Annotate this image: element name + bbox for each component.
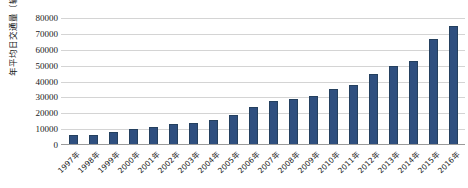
bar-slot <box>303 18 323 145</box>
x-axis-tick-label: 1998年 <box>75 149 101 175</box>
bar-slot <box>363 18 383 145</box>
plot-area <box>61 18 465 145</box>
x-axis-tick-label: 2006年 <box>235 149 261 175</box>
bar <box>289 99 298 145</box>
bar-series <box>61 18 465 145</box>
bar-slot <box>143 18 163 145</box>
x-axis-tick-labels: 1997年1998年1999年2000年2001年2002年2003年2004年… <box>61 147 465 188</box>
y-axis-tick-label: 30000 <box>36 93 59 102</box>
y-axis-title: 年平均日交通量（辆/日） <box>6 0 20 90</box>
y-axis-tick-labels: 8000070000600005000040000300002000010000… <box>20 0 58 150</box>
bar-slot <box>123 18 143 145</box>
y-axis-tick-label: 80000 <box>36 14 59 23</box>
bar-slot <box>343 18 363 145</box>
bar <box>389 66 398 145</box>
bar-slot <box>383 18 403 145</box>
x-axis-line <box>61 144 465 145</box>
y-axis-tick-label: 10000 <box>36 125 59 134</box>
y-axis-tick-label: 40000 <box>36 77 59 86</box>
bar-slot <box>243 18 263 145</box>
x-axis-tick-label: 2010年 <box>315 149 341 175</box>
x-axis-tick-label: 1999年 <box>95 149 121 175</box>
bar <box>209 120 218 145</box>
bar <box>129 129 138 145</box>
bar <box>429 39 438 145</box>
bar <box>189 123 198 145</box>
bar <box>249 107 258 145</box>
y-axis-tick-label: 70000 <box>36 29 59 38</box>
x-axis-tick-label: 2001年 <box>135 149 161 175</box>
bar-chart: 年平均日交通量（辆/日） 800007000060000500004000030… <box>0 0 468 188</box>
bar <box>349 85 358 145</box>
bar-slot <box>103 18 123 145</box>
bar <box>269 101 278 145</box>
bar <box>229 115 238 145</box>
y-axis-tick-label: 60000 <box>36 45 59 54</box>
bar-slot <box>403 18 423 145</box>
x-axis-tick-label: 2013年 <box>375 149 401 175</box>
bar <box>449 26 458 145</box>
bar-slot <box>63 18 83 145</box>
y-axis-tick-label: 20000 <box>36 109 59 118</box>
bar-slot <box>263 18 283 145</box>
x-axis-tick-label: 2011年 <box>335 149 361 175</box>
bar <box>149 127 158 145</box>
bar-slot <box>323 18 343 145</box>
bar <box>169 124 178 145</box>
x-axis-tick-label: 2005年 <box>215 149 241 175</box>
bar-slot <box>163 18 183 145</box>
bar-slot <box>183 18 203 145</box>
y-axis-tick-label: 0 <box>54 141 59 150</box>
x-axis-tick-label: 2012年 <box>355 149 381 175</box>
x-axis-tick-label: 2014年 <box>395 149 421 175</box>
x-axis-tick-label: 2004年 <box>195 149 221 175</box>
x-axis-tick-label: 2015年 <box>415 149 441 175</box>
x-axis-tick-label: 1997年 <box>55 149 81 175</box>
bar-slot <box>203 18 223 145</box>
x-axis-tick-label: 2000年 <box>115 149 141 175</box>
bar-slot <box>443 18 463 145</box>
bar-slot <box>283 18 303 145</box>
y-axis-tick-label: 50000 <box>36 61 59 70</box>
x-axis-tick-label: 2009年 <box>295 149 321 175</box>
bar-slot <box>423 18 443 145</box>
bar <box>369 74 378 145</box>
bar-slot <box>223 18 243 145</box>
bar <box>309 96 318 145</box>
x-axis-tick-label: 2002年 <box>155 149 181 175</box>
bar <box>409 61 418 145</box>
x-axis-tick-label: 2016年 <box>435 149 461 175</box>
x-axis-tick-label: 2003年 <box>175 149 201 175</box>
x-axis-tick-label: 2008年 <box>275 149 301 175</box>
bar-slot <box>83 18 103 145</box>
bar <box>329 89 338 145</box>
x-axis-tick-label: 2007年 <box>255 149 281 175</box>
